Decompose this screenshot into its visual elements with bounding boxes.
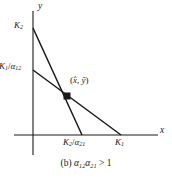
- caption-expression: α12α21: [74, 158, 97, 168]
- alpha21-subscript: 21: [79, 141, 85, 147]
- figure-caption: (b) α12α21 > 1: [0, 158, 172, 169]
- y-intercept-label-k2: K2: [14, 21, 23, 31]
- paren-close: ): [86, 75, 89, 85]
- x-intercept-label-k2-over-alpha21: K2/α21: [63, 138, 85, 148]
- k2-subscript: 2: [20, 24, 23, 30]
- caption-alpha21-sub: 21: [90, 162, 96, 169]
- k1x-subscript: 1: [121, 141, 124, 147]
- x-axis-label: x: [160, 126, 164, 136]
- alpha12-subscript: 12: [15, 65, 21, 71]
- y-axis-label: y: [38, 2, 42, 12]
- figure-competition-isoclines: y x K2 K1/α12 K2/α21 K1 (x̂, ŷ) (b) α12…: [0, 0, 172, 179]
- caption-relation: > 1: [99, 158, 111, 168]
- plot-canvas: [0, 0, 172, 179]
- caption-index: (b): [61, 158, 72, 168]
- y-intercept-label-k1-over-alpha12: K1/α12: [0, 62, 21, 72]
- equilibrium-point-marker: [64, 93, 71, 100]
- equilibrium-point-label: (x̂, ŷ): [70, 76, 89, 85]
- x-intercept-label-k1: K1: [115, 138, 124, 148]
